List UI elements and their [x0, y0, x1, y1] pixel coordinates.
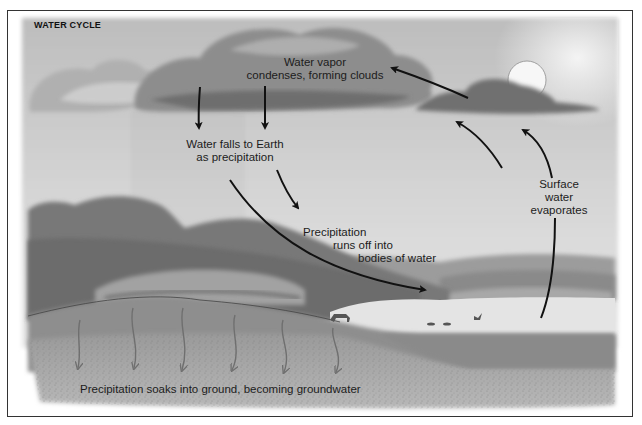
- label-evaporation-line1: Surface: [524, 178, 594, 191]
- label-precipitation: Water falls to Earth as precipitation: [180, 138, 290, 164]
- label-condensation-line2: condenses, forming clouds: [240, 69, 390, 82]
- label-groundwater: Precipitation soaks into ground, becomin…: [80, 383, 361, 396]
- label-runoff: Precipitation runs off into bodies of wa…: [303, 226, 436, 265]
- label-condensation: Water vapor condenses, forming clouds: [240, 56, 390, 82]
- label-runoff-line1: Precipitation: [303, 226, 436, 239]
- diagram-title: WATER CYCLE: [34, 20, 101, 30]
- label-condensation-line1: Water vapor: [240, 56, 390, 69]
- label-runoff-line3: bodies of water: [303, 252, 436, 265]
- label-evaporation-line3: evaporates: [524, 204, 594, 217]
- label-precipitation-line2: as precipitation: [180, 151, 290, 164]
- label-runoff-line2: runs off into: [303, 239, 436, 252]
- label-evaporation: Surface water evaporates: [524, 178, 594, 217]
- label-evaporation-line2: water: [524, 191, 594, 204]
- label-precipitation-line1: Water falls to Earth: [180, 138, 290, 151]
